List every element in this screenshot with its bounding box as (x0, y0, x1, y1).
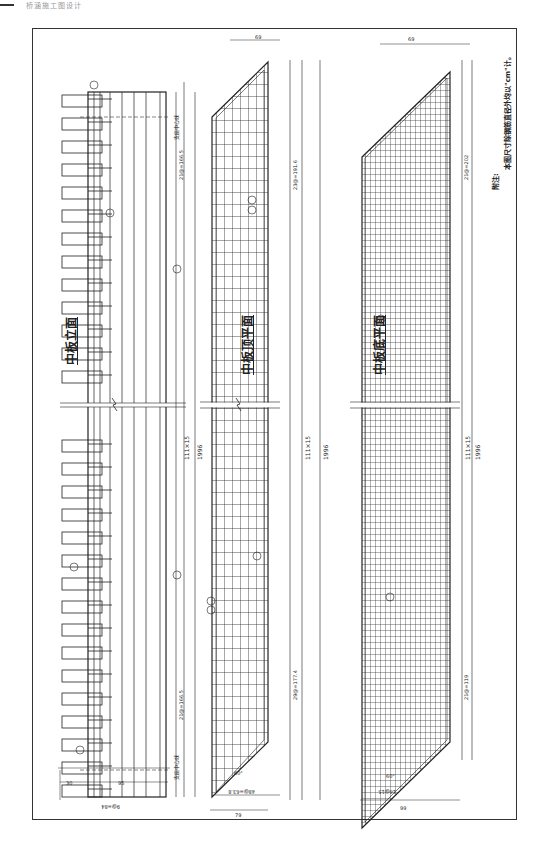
dim-elevation-total: 1996 (196, 445, 203, 460)
top-plan-view (200, 40, 320, 810)
dim-bottom-bot-split: 21@=119 (463, 675, 469, 700)
support-label-bottom: 支座中心线 (172, 755, 179, 780)
support-label-top: 支座中心线 (172, 115, 179, 140)
dim-bottom-angle: 60° (386, 773, 395, 779)
dim-bottom-bars: 16@15 (378, 789, 396, 795)
bottom-plan-view (350, 44, 472, 828)
drawing-canvas (0, 0, 545, 843)
dim-bottom-top-split: 21@=202 (463, 155, 469, 180)
dim-top-total: 1996 (322, 445, 329, 460)
dim-top-width-top: 69 (255, 34, 261, 40)
dim-elevation-bars: 9@=84 (101, 804, 120, 810)
dim-top-angle: 60° (234, 770, 243, 776)
dim-elevation-mid: 111×15 (183, 436, 190, 460)
dim-top-width-bot: 79 (235, 812, 241, 818)
dim-top-bot-split: 29@=177.4 (292, 670, 298, 700)
dim-bottom-width-bot: 99 (400, 805, 406, 811)
note-title: 附注: (490, 173, 500, 190)
dim-bottom-total: 1996 (474, 445, 481, 460)
dim-elevation-bot-split: 21@=166.5 (178, 690, 184, 720)
dim-top-mid: 111×15 (304, 436, 311, 460)
title-elevation: 中板立面 (62, 317, 79, 365)
dim-top-top-split: 23@=191.6 (292, 160, 298, 190)
dim-bottom-mid: 111×15 (464, 436, 471, 460)
title-bottom-plan: 中板底平面 (370, 315, 387, 375)
dim-elevation-width: 95 (118, 780, 124, 786)
dim-elevation-top-split: 21@=166.5 (178, 150, 184, 180)
note-text: 本图尺寸除钢筋直径外均以"cm"计。 (502, 53, 512, 170)
elevation-view (58, 81, 195, 800)
dim-bottom-width-top: 69 (408, 36, 414, 42)
title-top-plan: 中板顶平面 (238, 315, 255, 375)
dim-top-bars: 48@=63.8 (228, 789, 255, 795)
dim-elevation-side: 30 (66, 780, 72, 786)
